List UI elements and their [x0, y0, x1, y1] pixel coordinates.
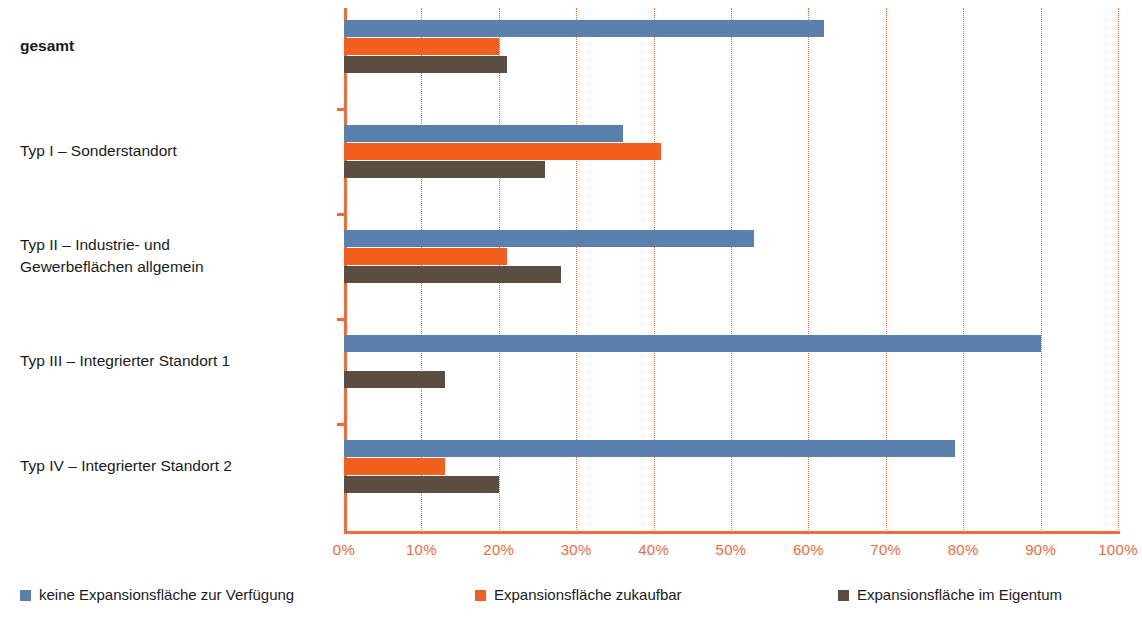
legend-swatch-icon	[838, 590, 849, 601]
bar-2	[344, 38, 499, 55]
category-label-line: Typ III – Integrierter Standort 1	[20, 350, 330, 372]
category-label-line: Typ I – Sonderstandort	[20, 140, 330, 162]
category-label-line: Gewerbeflächen allgemein	[20, 256, 330, 278]
bar-1	[344, 440, 955, 457]
bar-3	[344, 266, 561, 283]
gridline-100%	[1118, 8, 1119, 530]
x-tick-label: 20%	[469, 541, 529, 558]
bar-2	[344, 143, 661, 160]
bar-3	[344, 476, 499, 493]
x-tick-label: 40%	[624, 541, 684, 558]
bar-2	[344, 458, 445, 475]
x-tick-label: 30%	[546, 541, 606, 558]
category-label: Typ III – Integrierter Standort 1	[20, 350, 330, 372]
bar-3	[344, 56, 507, 73]
category-label-line: gesamt	[20, 35, 330, 57]
bar-3	[344, 371, 445, 388]
legend-label: Expansionsfläche zukaufbar	[494, 586, 682, 604]
legend-swatch-icon	[475, 590, 486, 601]
bar-1	[344, 20, 824, 37]
x-tick-label: 10%	[391, 541, 451, 558]
x-tick-label: 70%	[856, 541, 916, 558]
bar-1	[344, 230, 754, 247]
bar-2	[344, 248, 507, 265]
bar-1	[344, 335, 1041, 352]
x-tick-label: 0%	[314, 541, 374, 558]
legend-item[interactable]: Expansionsfläche zukaufbar	[475, 586, 682, 604]
category-label-line: Typ II – Industrie- und	[20, 234, 330, 256]
legend-swatch-icon	[20, 590, 31, 601]
x-tick-label: 50%	[701, 541, 761, 558]
legend-label: keine Expansionsfläche zur Verfügung	[39, 586, 294, 604]
chart-legend: keine Expansionsfläche zur VerfügungExpa…	[0, 586, 1134, 610]
x-tick-label: 60%	[778, 541, 838, 558]
plot-area	[344, 8, 1118, 530]
bar-1	[344, 125, 623, 142]
gridline-80%	[963, 8, 964, 530]
legend-item[interactable]: Expansionsfläche im Eigentum	[838, 586, 1062, 604]
category-label: gesamt	[20, 35, 330, 57]
x-tick-label: 100%	[1088, 541, 1142, 558]
x-tick-label: 90%	[1011, 541, 1071, 558]
x-tick-label: 80%	[933, 541, 993, 558]
gridline-90%	[1041, 8, 1042, 530]
legend-item[interactable]: keine Expansionsfläche zur Verfügung	[20, 586, 294, 604]
category-label: Typ IV – Integrierter Standort 2	[20, 455, 330, 477]
category-label-line: Typ IV – Integrierter Standort 2	[20, 455, 330, 477]
category-label: Typ II – Industrie- undGewerbeflächen al…	[20, 234, 330, 278]
bar-3	[344, 161, 545, 178]
x-axis-line	[344, 531, 1120, 534]
category-label: Typ I – Sonderstandort	[20, 140, 330, 162]
legend-label: Expansionsfläche im Eigentum	[857, 586, 1062, 604]
